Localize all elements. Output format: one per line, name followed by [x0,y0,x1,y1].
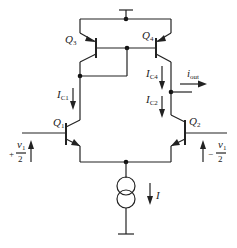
svg-text:v1: v1 [218,138,227,152]
svg-text:+: + [9,149,14,159]
svg-text:−: − [208,149,213,159]
tail-node [80,160,171,178]
emitter-arrow-icon [171,139,180,146]
arrow-ic1-icon [70,88,76,110]
label-q3: Q3 [65,33,77,47]
schematic: Q3 Q4 Q1 Q2 IC1 IC4 IC2 iout I + v1 2 − … [0,0,237,248]
transistor-q4 [156,33,171,115]
arrow-vin-right-icon [200,140,206,162]
label-q4: Q4 [142,29,154,43]
circuit-diagram: Q3 Q4 Q1 Q2 IC1 IC4 IC2 iout I + v1 2 − … [0,0,237,248]
emitter-arrow-icon [157,35,166,42]
svg-text:2: 2 [218,154,223,164]
label-q2: Q2 [189,115,201,129]
label-iout: iout [187,67,199,81]
label-ic1: IC1 [56,88,69,102]
output-node [169,81,207,95]
label-q1: Q1 [53,116,65,130]
arrow-vin-left-icon [28,140,34,162]
arrow-tail-current-icon [147,183,153,205]
transistor-q3 [80,33,96,76]
svg-text:2: 2 [18,154,23,164]
label-vin-left: + v1 2 [9,138,26,164]
label-vin-right: − v1 2 [208,138,227,164]
label-ic2: IC2 [145,93,158,107]
label-tail-current: I [155,189,161,201]
supply-terminal [119,10,133,21]
svg-text:v1: v1 [17,138,26,152]
arrow-ic4-icon [159,66,165,90]
arrow-ic2-icon [159,96,165,118]
iout-arrow-icon [198,81,207,88]
emitter-arrow-icon [71,139,80,146]
current-source [117,177,135,234]
label-ic4: IC4 [145,67,158,81]
